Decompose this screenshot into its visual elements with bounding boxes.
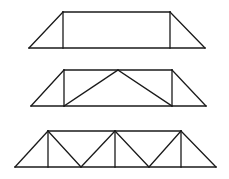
truss-member xyxy=(170,12,205,48)
truss-2-king-post xyxy=(31,70,206,106)
truss-member xyxy=(115,131,149,167)
truss-member xyxy=(149,131,181,167)
truss-diagram xyxy=(0,0,229,179)
truss-member xyxy=(181,131,216,167)
truss-member xyxy=(64,70,118,106)
truss-member xyxy=(118,70,172,106)
truss-3-warren-with-verticals xyxy=(15,131,216,167)
truss-member xyxy=(29,12,63,48)
truss-member xyxy=(172,70,206,106)
truss-member xyxy=(81,131,115,167)
truss-1-simple xyxy=(29,12,205,48)
truss-diagram-svg xyxy=(0,0,229,179)
truss-member xyxy=(31,70,64,106)
truss-member xyxy=(15,131,48,167)
truss-member xyxy=(48,131,81,167)
